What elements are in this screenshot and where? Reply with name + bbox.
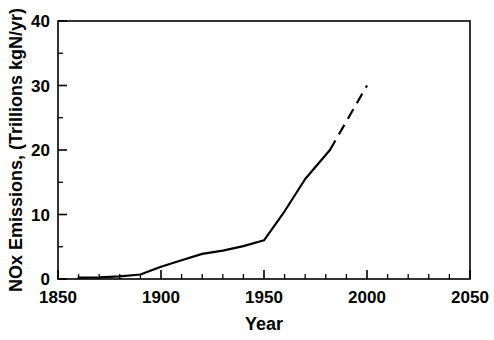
- chart-figure: 18501900195020002050 010203040 Year NOx …: [0, 0, 494, 340]
- y-tick-label: 10: [31, 206, 50, 225]
- y-tick-label: 20: [31, 141, 50, 160]
- x-tick-label: 1850: [39, 288, 77, 307]
- x-tick-label: 1900: [142, 288, 180, 307]
- x-tick-label: 2050: [451, 288, 489, 307]
- y-tick-label: 40: [31, 12, 50, 31]
- x-axis-title: Year: [245, 314, 283, 334]
- x-tick-label: 2000: [348, 288, 386, 307]
- y-tick-label: 0: [41, 270, 50, 289]
- y-tick-label: 30: [31, 77, 50, 96]
- y-axis-title: NOx Emissions, (Trillions kgN/yr): [6, 8, 26, 292]
- x-tick-label: 1950: [245, 288, 283, 307]
- nox-emissions-line-chart: 18501900195020002050 010203040 Year NOx …: [0, 0, 494, 340]
